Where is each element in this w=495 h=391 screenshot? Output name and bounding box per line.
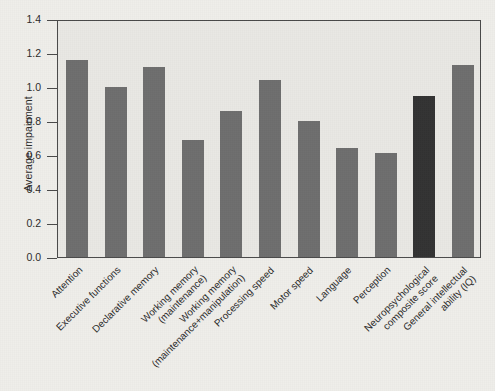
x-axis-tick-label: Attention <box>49 264 85 300</box>
x-axis-tick-label-line: Language <box>314 264 354 304</box>
x-axis-tick-label: Language <box>314 264 354 304</box>
x-axis-tick-label-line: Executive functions <box>54 264 123 333</box>
x-axis-tick-labels: AttentionExecutive functionsDeclarative … <box>0 0 495 391</box>
bar-chart-figure: Average impairment 0.00.20.40.60.81.01.2… <box>0 0 495 391</box>
x-axis-tick-label-line: Attention <box>49 264 85 300</box>
x-axis-tick-label: Executive functions <box>54 264 123 333</box>
